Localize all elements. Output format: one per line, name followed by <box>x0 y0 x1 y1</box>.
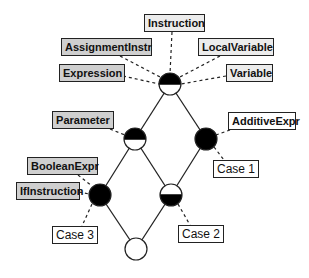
connector-local-variable <box>178 56 220 78</box>
node-additive-expr <box>195 128 217 150</box>
connector-assignment-instr <box>120 56 162 78</box>
label-case2: Case 2 <box>178 225 224 243</box>
connector-parameter <box>110 129 125 135</box>
node-bottom <box>125 238 147 260</box>
label-additive-expr: AdditiveExpr <box>228 112 296 130</box>
label-if-instruction: IfInstruction <box>16 182 80 200</box>
label-parameter: Parameter <box>52 111 114 129</box>
connector-case1 <box>214 147 224 160</box>
connector-instruction <box>170 32 172 74</box>
label-assignment-instr: AssignmentInstr <box>61 38 152 56</box>
node-case2 <box>160 184 182 206</box>
label-instruction: Instruction <box>144 14 205 32</box>
label-expression: Expression <box>59 64 125 82</box>
connector-case2 <box>178 204 190 225</box>
label-variable: Variable <box>226 64 273 82</box>
node-parameter <box>124 128 146 150</box>
label-case3: Case 3 <box>52 226 98 244</box>
connector-case3 <box>82 204 92 226</box>
label-boolean-expr: BooleanExpr <box>27 157 98 175</box>
node-top <box>159 73 181 95</box>
label-local-variable: LocalVariable <box>198 38 274 56</box>
node-if-instruction <box>89 184 111 206</box>
connector-variable <box>181 76 226 84</box>
label-case1: Case 1 <box>213 160 259 178</box>
connector-additive-expr <box>216 130 230 135</box>
connector-expression <box>123 76 159 84</box>
